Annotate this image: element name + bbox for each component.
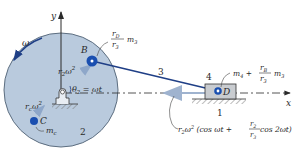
omega-label: ω xyxy=(22,38,30,48)
svg-text:rD: rD xyxy=(112,29,120,39)
theta-label: θ2 = ωt xyxy=(72,85,103,95)
point-d-joint xyxy=(214,87,222,95)
point-d-label: D xyxy=(222,87,230,97)
svg-text:cos 2ωt): cos 2ωt) xyxy=(260,125,292,134)
svg-text:m4 +: m4 + xyxy=(233,69,252,79)
svg-text:m3: m3 xyxy=(274,69,284,79)
slider-mass-label: m4 + rB r3 m3 xyxy=(233,63,284,84)
point-c-label: C xyxy=(40,116,47,126)
svg-text:r2: r2 xyxy=(250,120,256,129)
point-b-label: B xyxy=(80,45,88,55)
slider-ground xyxy=(192,99,246,104)
slider-accel-expression: r2ω2 (cos ωt + r2 r3 cos 2ωt) xyxy=(178,120,292,140)
point-b-joint xyxy=(87,56,98,67)
slider-accel-leader xyxy=(169,96,178,129)
x-axis-label: x xyxy=(286,98,291,108)
link-3-number: 3 xyxy=(158,67,164,77)
svg-text:m3: m3 xyxy=(127,35,137,45)
crank-link-number: 2 xyxy=(80,127,86,137)
svg-text:rB: rB xyxy=(260,63,268,73)
svg-text:r3: r3 xyxy=(260,74,267,84)
point-c-mass xyxy=(30,117,38,125)
y-axis-label: y xyxy=(50,11,57,21)
ground-number: 1 xyxy=(217,108,223,118)
svg-text:r3: r3 xyxy=(250,131,256,140)
slider-crank-diagram: ω y x θ2 = ωt r2ω2 3 B rD xyxy=(0,0,304,148)
svg-text:r2ω2 (cos ωt +: r2ω2 (cos ωt + xyxy=(178,124,232,135)
point-b-mass-label: rD r3 m3 xyxy=(111,29,137,50)
svg-text:r3: r3 xyxy=(112,40,119,50)
slider-number: 4 xyxy=(206,72,212,82)
